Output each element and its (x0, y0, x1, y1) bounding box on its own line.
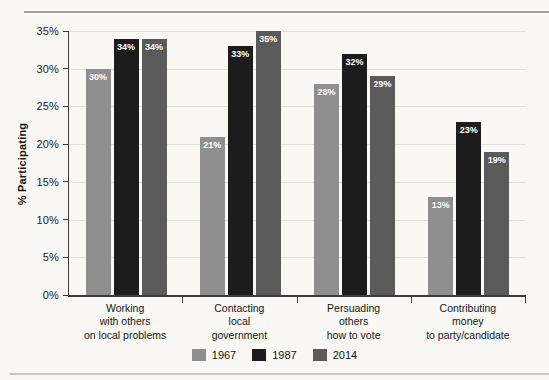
bar-value-label: 23% (456, 125, 481, 135)
page-top-rule (24, 11, 549, 13)
bar-value-label: 29% (370, 79, 395, 89)
bar-value-label: 35% (256, 34, 281, 44)
page-bottom-rule (10, 373, 549, 375)
bar-group-4: 13%23%19% (412, 31, 526, 295)
category-label-1: Working with others on local problems (68, 302, 182, 342)
legend-label-1967: 1967 (212, 349, 236, 361)
y-tick-label: 15% (21, 176, 59, 188)
legend-item-2014: 2014 (313, 349, 357, 361)
bar-value-label: 21% (200, 140, 225, 150)
bar-value-label: 33% (228, 49, 253, 59)
legend-swatch-1987 (252, 349, 266, 361)
bar-value-label: 28% (314, 87, 339, 97)
y-tick-label: 25% (21, 100, 59, 112)
bar-1987: 32% (342, 54, 367, 295)
category-label-3: Persuading others how to vote (297, 302, 411, 342)
bar-group-1: 30%34%34% (69, 31, 183, 295)
bar-1987: 33% (228, 46, 253, 295)
category-label-4: Contributing money to party/candidate (411, 302, 525, 342)
category-label-2: Contacting local government (182, 302, 296, 342)
bar-1967: 21% (200, 137, 225, 295)
legend-label-2014: 2014 (333, 349, 357, 361)
bar-2014: 34% (142, 39, 167, 295)
bar-2014: 29% (370, 76, 395, 295)
y-tick-label: 35% (21, 25, 59, 37)
bar-group-3: 28%32%29% (298, 31, 412, 295)
bar-2014: 35% (256, 31, 281, 295)
legend-swatch-1967 (192, 349, 206, 361)
legend: 196719872014 (0, 349, 549, 361)
legend-swatch-2014 (313, 349, 327, 361)
legend-label-1987: 1987 (272, 349, 296, 361)
y-tick-label: 30% (21, 63, 59, 75)
bar-1967: 28% (314, 84, 339, 295)
y-tick-label: 10% (21, 214, 59, 226)
bar-1967: 30% (86, 69, 111, 295)
bar-2014: 19% (484, 152, 509, 295)
bar-value-label: 30% (86, 72, 111, 82)
bar-group-2: 21%33%35% (183, 31, 297, 295)
bar-1987: 23% (456, 122, 481, 295)
legend-item-1987: 1987 (252, 349, 296, 361)
bar-value-label: 34% (142, 42, 167, 52)
bar-value-label: 34% (114, 42, 139, 52)
bar-value-label: 13% (428, 200, 453, 210)
y-tick-label: 0% (21, 289, 59, 301)
legend-item-1967: 1967 (192, 349, 236, 361)
bar-value-label: 19% (484, 155, 509, 165)
plot-area: 0%5%10%15%20%25%30%35%30%34%34%21%33%35%… (68, 31, 526, 297)
y-tick-label: 5% (21, 251, 59, 263)
bar-1987: 34% (114, 39, 139, 295)
scanned-page: % Participating 0%5%10%15%20%25%30%35%30… (0, 0, 549, 380)
bar-1967: 13% (428, 197, 453, 295)
x-tick-mark (525, 297, 526, 303)
y-axis-title: % Participating (16, 123, 28, 205)
y-tick-label: 20% (21, 138, 59, 150)
bar-value-label: 32% (342, 57, 367, 67)
